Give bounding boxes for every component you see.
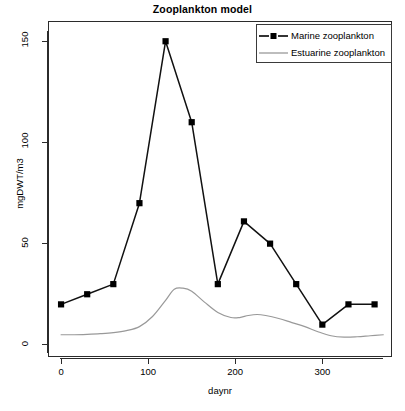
marine-data-point [267,241,273,247]
series-estuarine-zooplankton [61,288,383,337]
x-tick-label: 200 [220,366,250,377]
plot-canvas [48,21,392,357]
x-tick-label: 0 [46,366,76,377]
marine-data-point [110,281,116,287]
x-tick-label: 100 [133,366,163,377]
chart-figure: Zooplankton model 050100150 0100200300 m… [0,0,405,411]
marine-data-point [215,281,221,287]
marine-data-point [371,301,377,307]
legend-label-estuarine: Estuarine zooplankton [291,47,385,59]
legend-label-marine: Marine zooplankton [291,30,374,42]
marine-data-point [84,291,90,297]
y-axis-label: mgDWT/m3 [14,139,25,229]
x-axis-label: daynr [48,385,392,396]
marine-data-point [319,322,325,328]
y-tick-label: 150 [19,25,30,55]
marine-data-point [162,38,168,44]
y-tick-label: 0 [19,328,30,358]
legend-key-marine-icon [257,29,291,43]
legend-item-estuarine: Estuarine zooplankton [257,44,393,61]
marine-data-point [293,281,299,287]
x-tick-label: 300 [307,366,337,377]
estuarine-line [61,288,383,337]
legend-item-marine: Marine zooplankton [257,27,393,44]
marine-markers [58,38,378,328]
series-marine-zooplankton [58,38,378,328]
y-tick-label: 50 [19,227,30,257]
x-axis-line [60,358,383,359]
chart-title: Zooplankton model [0,3,405,15]
marine-data-point [241,218,247,224]
y-axis-line [47,31,48,353]
legend-key-estuarine-icon [257,46,291,60]
chart-legend: Marine zooplankton Estuarine zooplankton [256,24,392,63]
marine-data-point [189,119,195,125]
marine-data-point [136,200,142,206]
marine-data-point [345,301,351,307]
marine-data-point [58,301,64,307]
